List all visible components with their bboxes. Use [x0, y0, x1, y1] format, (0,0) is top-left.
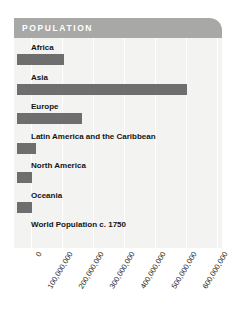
bar-group: North America	[14, 160, 222, 190]
bar	[17, 54, 64, 65]
x-tick-label: 0	[34, 250, 44, 258]
bar	[17, 202, 32, 213]
x-axis: 0100,000,000200,000,000300,000,000400,00…	[14, 248, 234, 321]
plot-area: AfricaAsiaEuropeLatin America and the Ca…	[14, 38, 222, 248]
bar-label: Europe	[31, 101, 59, 112]
bar-group: World Population c. 1750	[14, 219, 222, 248]
x-tick-label: 300,000,000	[108, 250, 137, 290]
population-bar-chart: POPULATION AfricaAsiaEuropeLatin America…	[0, 0, 234, 321]
page-title: POPULATION	[22, 22, 93, 34]
bar	[17, 172, 32, 183]
bar-group: Asia	[14, 72, 222, 102]
x-tick-label: 500,000,000	[170, 250, 199, 290]
x-tick-label: 600,000,000	[201, 250, 230, 290]
x-tick-label: 400,000,000	[139, 250, 168, 290]
bar-label: Oceania	[31, 190, 62, 201]
bar-group: Europe	[14, 101, 222, 131]
x-tick-label: 100,000,000	[46, 250, 75, 290]
bar-group: Africa	[14, 42, 222, 72]
bar	[17, 84, 187, 95]
bar	[17, 113, 82, 124]
bar-label: Latin America and the Caribbean	[31, 131, 156, 142]
bar-label: Asia	[31, 72, 48, 83]
bar-label: World Population c. 1750	[31, 219, 126, 230]
bar-group: Oceania	[14, 190, 222, 220]
panel-header: POPULATION	[14, 18, 222, 38]
bar-label: North America	[31, 160, 86, 171]
x-tick-label: 200,000,000	[77, 250, 106, 290]
bar	[17, 143, 36, 154]
chart-panel: POPULATION AfricaAsiaEuropeLatin America…	[14, 18, 222, 248]
bar-label: Africa	[31, 42, 54, 53]
bar-group: Latin America and the Caribbean	[14, 131, 222, 161]
